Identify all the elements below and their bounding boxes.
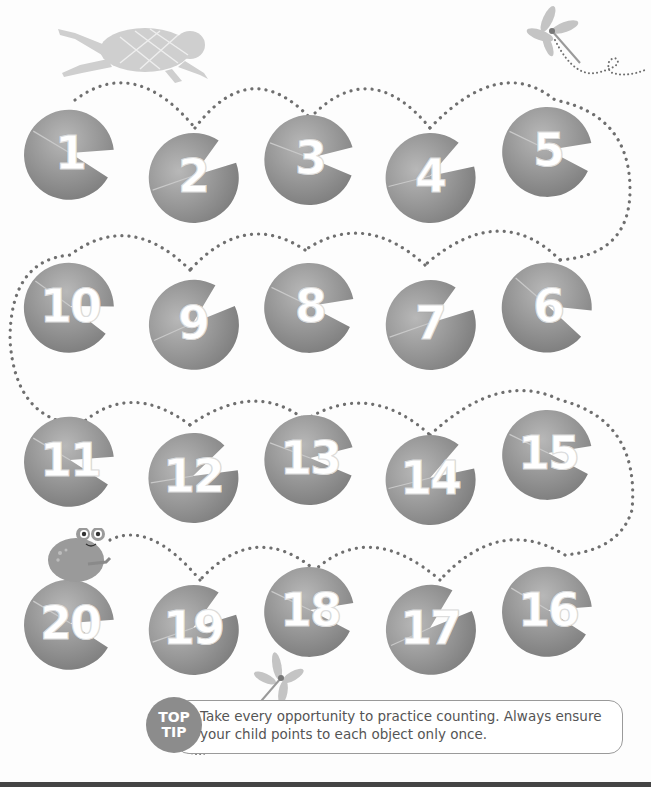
dragonfly-icon xyxy=(520,5,590,65)
lily-pad-8: 8 xyxy=(262,258,358,354)
lily-pad-1: 1 xyxy=(22,105,118,201)
badge-line1: TOP xyxy=(158,710,190,725)
lily-pad-15: 15 xyxy=(500,405,596,501)
tracing-number: 8 xyxy=(262,258,358,354)
lily-pad-2: 2 xyxy=(145,128,241,224)
tip-text: Take every opportunity to practice count… xyxy=(200,707,610,743)
lily-pad-4: 4 xyxy=(382,128,478,224)
tracing-number: 20 xyxy=(22,575,118,671)
tracing-number: 5 xyxy=(500,102,596,198)
tracing-number: 17 xyxy=(382,580,478,676)
lily-pad-16: 16 xyxy=(500,562,596,658)
page-edge xyxy=(0,782,651,787)
tracing-number: 6 xyxy=(500,258,596,354)
tracing-number: 1 xyxy=(22,105,118,201)
top-tip-badge: TOP TIP xyxy=(146,697,202,753)
lily-pad-19: 19 xyxy=(145,580,241,676)
jumping-frog-icon xyxy=(50,15,210,85)
lily-pad-18: 18 xyxy=(262,562,358,658)
tracing-number: 10 xyxy=(22,258,118,354)
lily-pad-3: 3 xyxy=(262,110,358,206)
tracing-number: 13 xyxy=(262,410,358,506)
tracing-number: 7 xyxy=(382,275,478,371)
tracing-number: 9 xyxy=(145,275,241,371)
sitting-frog-icon xyxy=(38,528,113,588)
lily-pad-17: 17 xyxy=(382,580,478,676)
tracing-number: 14 xyxy=(382,430,478,526)
tracing-number: 16 xyxy=(500,562,596,658)
tracing-number: 3 xyxy=(262,110,358,206)
lily-pad-5: 5 xyxy=(500,102,596,198)
lily-pad-11: 11 xyxy=(22,412,118,508)
tracing-number: 2 xyxy=(145,128,241,224)
lily-pad-7: 7 xyxy=(382,275,478,371)
lily-pad-20: 20 xyxy=(22,575,118,671)
lily-pad-9: 9 xyxy=(145,275,241,371)
badge-line2: TIP xyxy=(161,725,186,740)
tracing-number: 19 xyxy=(145,580,241,676)
worksheet-page: 1234510987611121314152019181716 TOP TIP … xyxy=(0,0,651,787)
lily-pad-10: 10 xyxy=(22,258,118,354)
tracing-number: 18 xyxy=(262,562,358,658)
lily-pad-6: 6 xyxy=(500,258,596,354)
tracing-number: 15 xyxy=(500,405,596,501)
lily-pad-14: 14 xyxy=(382,430,478,526)
tracing-number: 11 xyxy=(22,412,118,508)
lily-pad-12: 12 xyxy=(145,428,241,524)
tracing-number: 4 xyxy=(382,128,478,224)
tracing-number: 12 xyxy=(145,428,241,524)
lily-pad-13: 13 xyxy=(262,410,358,506)
